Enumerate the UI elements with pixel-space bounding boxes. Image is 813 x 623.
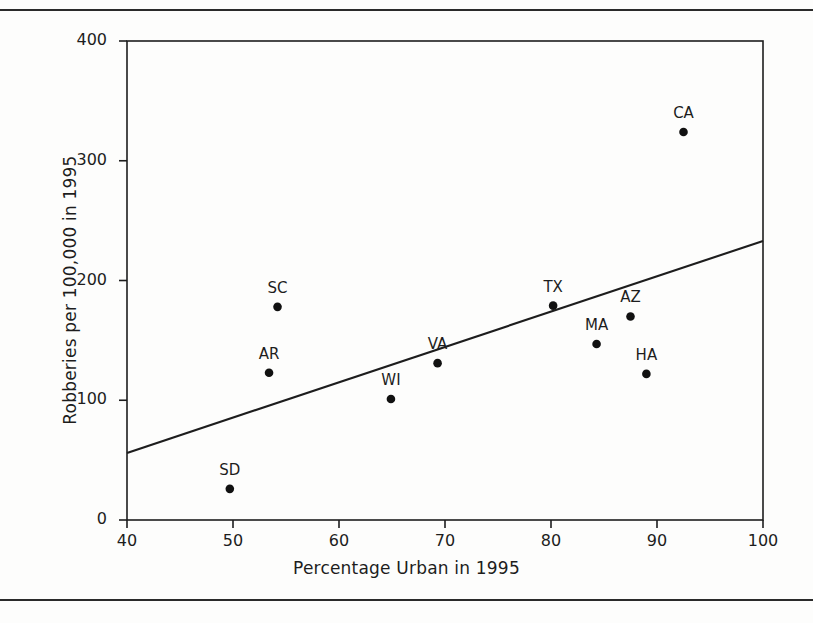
y-tick-label-400: 400 [47, 30, 107, 49]
data-point-AR [265, 368, 274, 377]
data-point-TX [549, 301, 558, 310]
data-point-MA [592, 340, 601, 349]
figure-container: CASCTXAZMAVAARHAWISD 405060708090100 010… [0, 0, 813, 623]
x-tick-label-100: 100 [733, 531, 793, 550]
x-tick-label-40: 40 [97, 531, 157, 550]
point-label-VA: VA [414, 335, 462, 353]
x-tick-label-90: 90 [627, 531, 687, 550]
data-point-VA [433, 359, 442, 368]
data-point-HA [642, 370, 651, 379]
point-label-AZ: AZ [607, 288, 655, 306]
point-label-AR: AR [245, 345, 293, 363]
point-label-HA: HA [622, 346, 670, 364]
data-point-CA [679, 128, 688, 137]
x-tick-label-80: 80 [521, 531, 581, 550]
data-points [226, 128, 688, 493]
data-point-AZ [626, 312, 635, 321]
data-point-WI [387, 395, 396, 404]
point-label-WI: WI [367, 371, 415, 389]
y-tick-label-0: 0 [47, 509, 107, 528]
x-tick-label-70: 70 [415, 531, 475, 550]
point-label-SC: SC [254, 279, 302, 297]
y-axis-ticks [119, 41, 127, 520]
scatter-plot [0, 0, 813, 623]
point-label-CA: CA [660, 104, 708, 122]
y-axis-title: Robberies per 100,000 in 1995 [60, 80, 80, 500]
x-axis-title: Percentage Urban in 1995 [0, 558, 813, 578]
data-point-SC [273, 303, 282, 312]
x-axis-ticks [127, 520, 763, 528]
x-tick-label-60: 60 [309, 531, 369, 550]
data-point-SD [226, 485, 235, 494]
x-tick-label-50: 50 [203, 531, 263, 550]
point-label-MA: MA [573, 316, 621, 334]
point-label-SD: SD [206, 461, 254, 479]
point-label-TX: TX [529, 278, 577, 296]
